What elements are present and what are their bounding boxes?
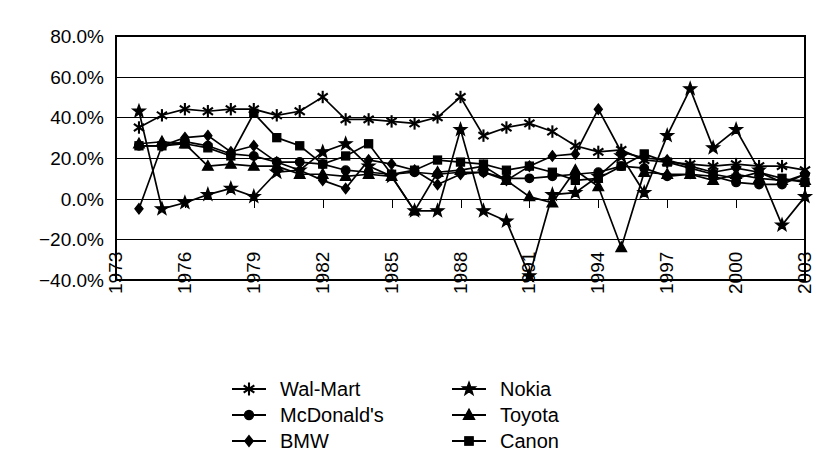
data-point-marker <box>457 158 465 166</box>
data-point-marker <box>244 410 253 419</box>
data-point-marker <box>342 152 350 160</box>
data-point-marker <box>319 160 327 168</box>
data-point-marker <box>686 164 694 172</box>
y-axis-label: −20.0% <box>39 229 104 250</box>
data-point-marker <box>388 170 396 178</box>
chart-background <box>0 0 820 461</box>
data-point-marker <box>135 142 143 150</box>
data-point-marker <box>250 152 259 161</box>
data-point-marker <box>502 166 510 174</box>
line-chart-figure: 80.0%60.0%40.0%20.0%0.0%−20.0%−40.0% 197… <box>0 0 820 461</box>
data-point-marker <box>250 109 258 117</box>
y-axis-label: 60.0% <box>50 67 104 88</box>
data-point-marker <box>525 174 534 183</box>
x-axis-label: 1997 <box>656 252 677 294</box>
data-point-marker <box>778 174 786 182</box>
x-axis-label: 1976 <box>174 252 195 294</box>
y-axis-label: 0.0% <box>61 189 104 210</box>
data-point-marker <box>204 144 212 152</box>
legend-label: BMW <box>280 430 329 452</box>
data-point-marker <box>296 142 304 150</box>
data-point-marker <box>411 166 419 174</box>
data-point-marker <box>465 437 473 445</box>
data-point-marker <box>617 162 625 170</box>
data-point-marker <box>801 178 809 186</box>
data-point-marker <box>640 150 648 158</box>
data-point-marker <box>227 152 235 160</box>
legend-label: Wal-Mart <box>280 378 361 400</box>
legend-label: McDonald's <box>280 404 384 426</box>
data-point-marker <box>663 158 671 166</box>
data-point-marker <box>181 140 189 148</box>
legend-marker-circle-icon <box>244 410 253 419</box>
x-axis-label: 1994 <box>587 251 608 294</box>
legend-label: Canon <box>500 430 559 452</box>
legend-label: Nokia <box>500 378 552 400</box>
data-point-marker <box>525 162 533 170</box>
data-point-marker <box>434 156 442 164</box>
data-point-marker <box>571 176 579 184</box>
y-axis-label: 80.0% <box>50 26 104 47</box>
x-axis-label: 2000 <box>725 252 746 294</box>
y-axis-label: −40.0% <box>39 270 104 291</box>
chart-canvas: 80.0%60.0%40.0%20.0%0.0%−20.0%−40.0% 197… <box>0 0 820 461</box>
x-axis-label: 1985 <box>381 252 402 294</box>
data-point-marker <box>365 140 373 148</box>
data-point-marker <box>732 174 740 182</box>
data-point-marker <box>158 142 166 150</box>
legend-marker-square-icon <box>465 437 473 445</box>
data-point-marker <box>709 170 717 178</box>
legend-label: Toyota <box>500 404 560 426</box>
x-axis-label: 1988 <box>450 252 471 294</box>
data-point-marker <box>548 168 556 176</box>
x-axis-label: 1982 <box>312 252 333 294</box>
data-point-marker <box>755 168 763 176</box>
y-axis-label: 40.0% <box>50 107 104 128</box>
y-axis-label: 20.0% <box>50 148 104 169</box>
data-point-marker <box>594 174 602 182</box>
data-point-marker <box>273 134 281 142</box>
x-axis-label: 1979 <box>243 252 264 294</box>
data-point-marker <box>479 160 487 168</box>
